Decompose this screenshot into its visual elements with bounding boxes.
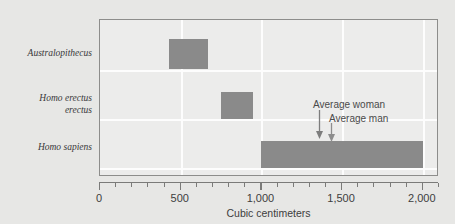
x-tick-major-1500 [341,183,342,190]
x-tick-minor-1800 [390,183,391,187]
x-tick-minor-600 [196,183,197,187]
bar-homo-erectus-erectus [221,92,253,119]
x-tick-label-500: 500 [171,192,189,204]
x-tick-minor-1600 [357,183,358,187]
x-tick-minor-100 [115,183,116,187]
category-label-australopithecus: Australopithecus [0,48,92,60]
x-tick-label-0: 0 [96,192,102,204]
x-tick-minor-1400 [325,183,326,187]
gridline-horizontal-1 [100,70,437,72]
x-axis-title: Cubic centimeters [99,207,438,219]
x-tick-minor-1300 [309,183,310,187]
x-tick-minor-1700 [373,183,374,187]
x-tick-label-1500: 1,500 [327,192,355,204]
annotation-arrow-average-woman [315,110,324,140]
gridline-vertical-2000 [423,20,425,175]
annotation-average-woman-label: Average woman [313,99,385,110]
x-tick-minor-700 [212,183,213,187]
x-tick-minor-1900 [406,183,407,187]
category-label-homo-erectus: Homo erectus erectus [0,93,92,116]
category-label-homo-erectus-line2: erectus [0,105,92,117]
cropped-top-caption [280,0,455,6]
x-tick-label-2000: 2,000 [408,192,436,204]
bar-australopithecus [169,39,208,69]
category-label-homo-sapiens-text: Homo sapiens [38,142,92,152]
category-label-australopithecus-text: Australopithecus [28,48,92,58]
annotation-average-man-label: Average man [329,113,388,124]
x-tick-minor-1100 [277,183,278,187]
x-tick-minor-900 [244,183,245,187]
x-tick-label-1000: 1,000 [247,192,275,204]
gridline-horizontal-3 [100,168,437,170]
annotation-arrow-average-man [327,123,336,143]
category-label-homo-sapiens: Homo sapiens [0,142,92,154]
x-tick-minor-300 [147,183,148,187]
x-tick-minor-200 [131,183,132,187]
x-tick-major-1000 [260,183,261,190]
x-tick-minor-1200 [293,183,294,187]
bar-homo-sapiens [261,141,422,168]
x-tick-major-2000 [422,183,423,190]
plot-area [99,19,438,176]
chart-figure: Australopithecus Homo erectus erectus Ho… [0,0,455,224]
x-tick-minor-800 [228,183,229,187]
x-tick-minor-400 [164,183,165,187]
category-label-homo-erectus-line1: Homo erectus [0,93,92,105]
x-tick-major-500 [180,183,181,190]
x-axis-line [99,182,438,183]
x-tick-major-0 [99,183,100,190]
x-tick-minor-2100 [438,183,439,187]
